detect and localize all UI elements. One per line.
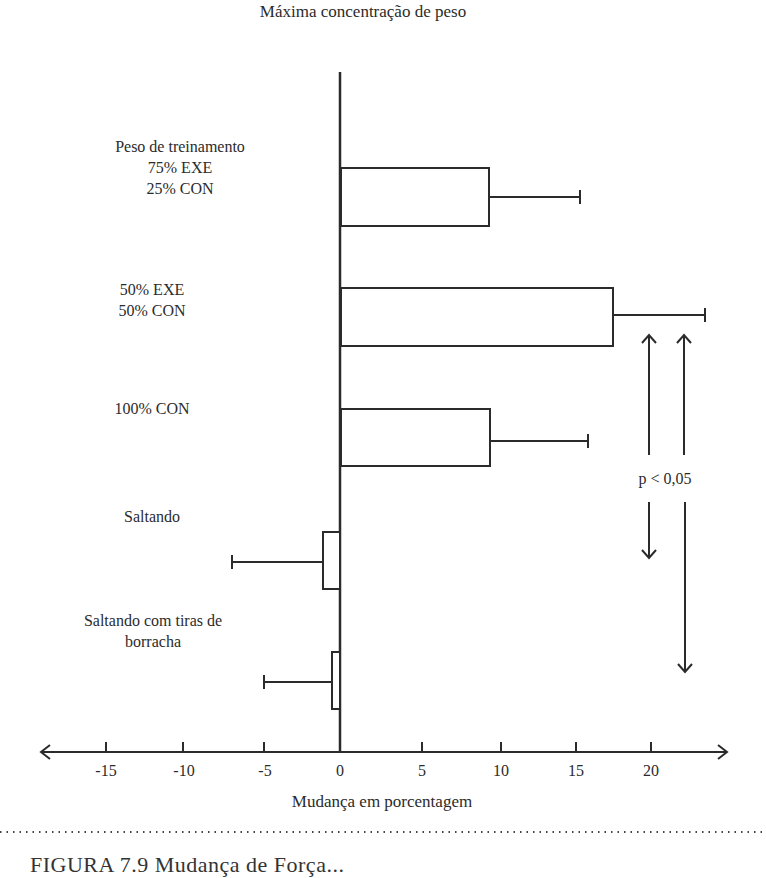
tick-label: 15 [556, 762, 596, 780]
tick-label: 5 [402, 762, 442, 780]
tick-label: -15 [86, 762, 126, 780]
tick-label: 10 [481, 762, 521, 780]
figure-caption-partial: FIGURA 7.9 Mudança de Força... [30, 852, 344, 878]
category-label-100con: 100% CON [2, 398, 302, 419]
tick-label: 20 [631, 762, 671, 780]
bar-75exe-25con [341, 168, 580, 226]
bar-saltando [232, 532, 340, 589]
x-axis-label: Mudança em porcentagem [232, 792, 532, 812]
tick-label: 0 [320, 762, 360, 780]
tick-label: -5 [245, 762, 285, 780]
category-label-saltando-tiras: Saltando com tiras de borracha [3, 610, 303, 652]
x-ticks [106, 742, 651, 752]
significance-arrow-2 [677, 335, 692, 672]
significance-arrow-1 [642, 335, 656, 558]
tick-label: -10 [164, 762, 204, 780]
category-label-saltando: Saltando [2, 506, 302, 527]
category-label-75exe: Peso de treinamento 75% EXE 25% CON [30, 136, 330, 199]
bar-100con [341, 409, 588, 466]
significance-label: p < 0,05 [620, 470, 710, 488]
category-label-50exe: 50% EXE 50% CON [2, 279, 302, 321]
bar-saltando-tiras [264, 652, 340, 709]
